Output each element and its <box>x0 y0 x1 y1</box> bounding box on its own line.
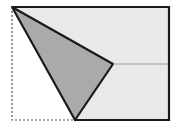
folded-rectangle-diagram <box>0 0 179 128</box>
